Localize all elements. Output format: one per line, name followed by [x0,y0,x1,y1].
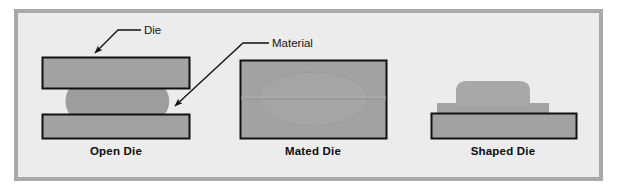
die-callout-leader [95,30,141,53]
callout-label-die: Die [144,24,161,36]
stage-mated-die [241,61,387,139]
caption-shaped-die: Shaped Die [430,145,576,157]
material-blob [66,87,169,116]
callout-label-material: Material [272,37,313,49]
caption-open-die: Open Die [42,145,190,157]
shaped-lower-die-block [432,114,577,139]
upper-die-block [43,58,190,89]
shaped-part-dome [456,81,530,106]
stage-shaped-die [432,81,577,139]
lower-die-block [43,115,190,139]
die-forming-diagram [0,0,617,191]
stage-open-die [43,58,190,139]
figure-root: Die Material Open Die Mated Die Shaped D… [0,0,617,191]
caption-mated-die: Mated Die [240,145,386,157]
